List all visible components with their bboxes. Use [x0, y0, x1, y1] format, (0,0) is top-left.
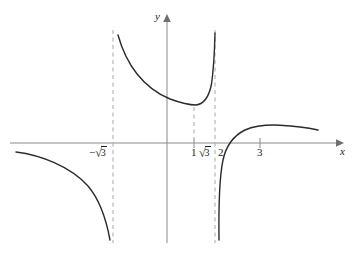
y-axis-arrow-icon: [163, 14, 171, 22]
tick-label-three: 3: [257, 147, 263, 158]
radicand-value: 3: [101, 146, 107, 159]
curve-right-branch: [219, 125, 318, 240]
y-axis-label: y: [155, 11, 160, 22]
x-axis-label: x: [340, 146, 345, 157]
sqrt-group-neg: √3: [95, 146, 107, 159]
tick-label-one: 1: [191, 147, 197, 158]
radicand-value: 3: [205, 146, 211, 159]
tick-label-neg-sqrt3: −√3: [89, 146, 107, 159]
plot-canvas: [0, 0, 362, 257]
tick-label-sqrt3: √3: [199, 146, 211, 159]
graph-figure: y x −√3 1 √3 2 3: [0, 0, 362, 257]
curve-left-branch: [16, 152, 110, 240]
sqrt-group-pos: √3: [199, 146, 211, 159]
tick-label-two: 2: [218, 147, 224, 158]
